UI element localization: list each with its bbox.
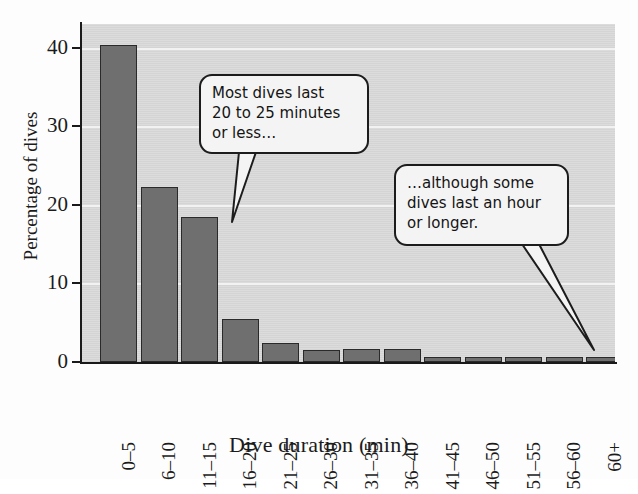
callout-1-line-2: 20 to 25 minutes	[212, 103, 356, 123]
callout-1-line-1: Most dives last	[212, 83, 356, 103]
y-tick-40	[72, 47, 82, 49]
x-axis-line	[80, 362, 617, 364]
callout-most-dives: Most dives last 20 to 25 minutes or less…	[199, 74, 369, 154]
bar-0–5	[100, 45, 137, 362]
y-tick-0	[72, 361, 82, 363]
bar-6–10	[141, 187, 178, 362]
bar-31–35	[343, 349, 380, 362]
callout-1-line-3: or less…	[212, 123, 356, 143]
y-tick-label-wrap-40: 40	[14, 37, 68, 58]
y-tick-10	[72, 282, 82, 284]
bar-11–15	[181, 217, 218, 362]
callout-although-some: …although some dives last an hour or lon…	[394, 164, 569, 246]
bar-26–30	[303, 350, 340, 362]
y-tick-30	[72, 125, 82, 127]
bar-21–25	[262, 343, 299, 362]
y-tick-label-40: 40	[24, 37, 68, 58]
bar-36–40	[384, 349, 421, 362]
bar-16–20	[222, 319, 259, 362]
y-axis-title: Percentage of dives	[20, 56, 42, 316]
y-tick-label-0: 0	[24, 351, 68, 372]
callout-2-line-1: …although some	[407, 173, 556, 193]
x-axis-title: Dive duration (min)	[0, 432, 638, 458]
y-tick-20	[72, 204, 82, 206]
callout-2-line-2: dives last an hour	[407, 193, 556, 213]
y-tick-label-wrap-0: 0	[14, 351, 68, 372]
y-axis-line	[80, 22, 82, 364]
callout-2-line-3: or longer.	[407, 213, 556, 233]
